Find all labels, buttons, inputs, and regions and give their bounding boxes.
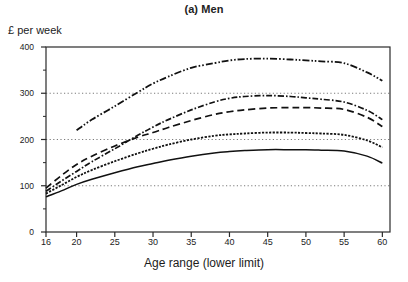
- x-tick-label: 30: [141, 237, 165, 247]
- x-tick-label: 55: [332, 237, 356, 247]
- x-tick-label: 35: [179, 237, 203, 247]
- y-tick-label: 200: [8, 135, 34, 145]
- x-tick-label: 60: [370, 237, 394, 247]
- chart-container: (a) Men £ per week 0100200300400 1620253…: [0, 0, 408, 282]
- x-tick-label: 50: [294, 237, 318, 247]
- series-line-1: [77, 59, 383, 131]
- x-tick-label: 25: [103, 237, 127, 247]
- x-tick-label: 20: [65, 237, 89, 247]
- series-line-2: [46, 96, 382, 192]
- x-tick-label: 45: [256, 237, 280, 247]
- x-tick-label: 16: [34, 237, 58, 247]
- series-line-3: [46, 108, 382, 189]
- series-line-4: [46, 132, 382, 193]
- x-tick-label: 40: [217, 237, 241, 247]
- y-tick-label: 300: [8, 88, 34, 98]
- x-axis-label: Age range (lower limit): [0, 256, 408, 270]
- y-tick-label: 0: [8, 227, 34, 237]
- y-tick-label: 100: [8, 181, 34, 191]
- series-line-5: [46, 150, 382, 197]
- y-tick-label: 400: [8, 42, 34, 52]
